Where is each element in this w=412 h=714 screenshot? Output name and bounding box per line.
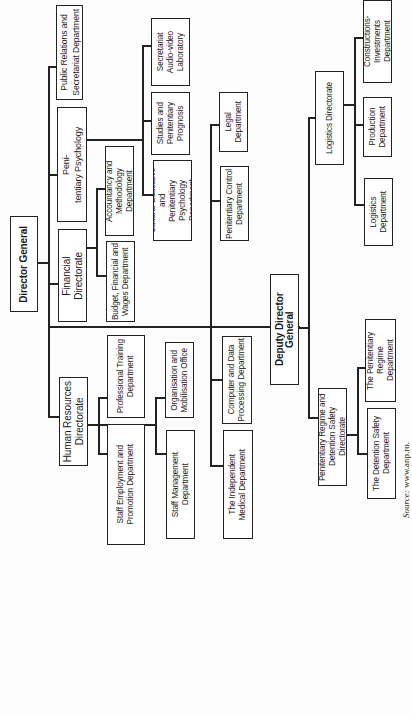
node-professional-training: Professional Training Department	[107, 335, 145, 418]
connector	[87, 139, 143, 141]
connector	[210, 379, 222, 381]
node-label: Production Department	[368, 106, 388, 148]
node-label: Penitentiary Regime and Detention Safety…	[318, 389, 347, 485]
connector	[38, 262, 49, 264]
node-label: Director General	[19, 226, 29, 303]
node-logistics-directorate: Logistics Directorate	[315, 71, 344, 165]
node-label: Deputy Director General	[275, 275, 295, 384]
node-label: Secretariat Audio-video Laboratory	[156, 31, 186, 73]
connector	[357, 453, 367, 455]
node-label: Constructions-Investments Department	[363, 1, 392, 82]
node-detention-safety: The Detention Safety Department	[367, 408, 396, 499]
node-label: Budget, Financial and Wages Department	[111, 243, 131, 320]
node-public-relations: Public Relations and Secretariat Departm…	[56, 5, 83, 100]
connector	[308, 117, 310, 418]
node-education-directorate: Education, Studies and Peni- tentiary Ps…	[57, 107, 87, 222]
node-label: Computer and Data Processing Department	[227, 338, 247, 421]
node-computer-data: Computer and Data Processing Department	[222, 336, 252, 424]
connector	[357, 367, 365, 369]
node-regime-directorate: Penitentiary Regime and Detention Safety…	[318, 388, 347, 486]
node-cultural-educative: Cultural-Educative and Penitentiary Psyc…	[153, 160, 192, 241]
connector	[98, 453, 107, 455]
connector	[155, 453, 166, 455]
node-director-general: Director General	[10, 216, 38, 312]
source-value: www.anp.ro.	[401, 442, 411, 488]
node-staff-employment: Staff Employment and Promotion Departmen…	[107, 424, 145, 545]
node-label: The Detention Safety Department	[372, 416, 392, 491]
connector	[48, 416, 59, 418]
connector	[48, 66, 50, 416]
source-caption: Source: www.anp.ro.	[401, 433, 411, 518]
node-label: Public Relations and Secretariat Departm…	[58, 9, 82, 96]
connector	[357, 367, 359, 454]
connector	[354, 37, 356, 204]
node-constructions-dept: Constructions-Investments Department	[363, 0, 392, 83]
node-deputy-director: Deputy Director General	[270, 274, 299, 385]
node-label: Human Resources Directorate	[62, 381, 86, 462]
node-label: Financial Directorate	[61, 252, 85, 300]
node-label: Legal Department	[224, 101, 244, 143]
node-label: Logistics Directorate	[325, 82, 335, 154]
node-label: Education, Studies and Peni- tentiary Ps…	[57, 108, 87, 221]
connector	[354, 204, 364, 206]
connector	[48, 326, 300, 328]
connector	[210, 465, 223, 467]
connector	[96, 275, 106, 277]
node-label: Penitentiary Control Department	[225, 169, 245, 239]
connector	[48, 283, 58, 285]
node-staff-management: Staff Management Department	[166, 430, 195, 539]
connector	[354, 37, 363, 39]
node-label: Accountancy and Methodology Department	[105, 147, 134, 235]
connector	[96, 188, 98, 276]
node-label: Studies and Penitentiary Prognosis	[156, 102, 186, 144]
node-label: Staff Management Department	[171, 452, 191, 517]
node-production-dept: Production Department	[363, 97, 392, 157]
node-regime-dept: The Penitentiary Regime Department	[365, 319, 396, 402]
source-label: Source:	[401, 490, 411, 518]
node-financial-directorate: Financial Directorate	[58, 229, 87, 322]
node-organisation-office: Organisation and Mobilisation Office	[165, 342, 194, 418]
node-label: Organisation and Mobilisation Office	[170, 348, 190, 413]
node-logistics-dept: Logistics Department	[364, 178, 393, 246]
node-accountancy-dept: Accountancy and Methodology Department	[105, 146, 134, 236]
node-label: Staff Employment and Promotion Departmen…	[116, 444, 136, 524]
connector	[155, 397, 165, 399]
node-label: The Independent Medical Department	[228, 449, 248, 520]
node-budget-dept: Budget, Financial and Wages Department	[106, 241, 135, 322]
org-chart: Director General Public Relations and Se…	[0, 0, 412, 714]
node-label: Logistics Department	[369, 191, 389, 233]
connector	[210, 124, 212, 466]
node-secretariat-lab: Secretariat Audio-video Laboratory	[151, 18, 190, 86]
node-label: The Penitentiary Regime Department	[366, 320, 396, 401]
connector	[354, 124, 363, 126]
connector	[308, 417, 318, 419]
connector	[98, 397, 107, 399]
node-independent-medical: The Independent Medical Department	[223, 430, 253, 539]
node-label: Professional Training Department	[116, 339, 136, 413]
connector	[155, 397, 157, 454]
connector	[210, 124, 219, 126]
connector	[98, 397, 100, 454]
connector	[142, 45, 151, 47]
node-penitentiary-control: Penitentiary Control Department	[220, 166, 249, 241]
node-label: Cultural-Educative and Penitentiary Psyc…	[153, 161, 192, 240]
connector	[142, 120, 151, 122]
node-human-resources: Human Resources Directorate	[59, 377, 88, 466]
connector	[142, 194, 153, 196]
connector	[210, 200, 220, 202]
node-legal-dept: Legal Department	[219, 92, 248, 152]
node-studies-prognosis: Studies and Penitentiary Prognosis	[151, 92, 190, 155]
